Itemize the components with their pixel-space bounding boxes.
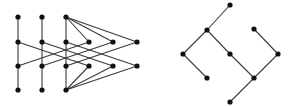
left-poset-node: [15, 39, 20, 44]
left-poset-node: [86, 63, 91, 68]
right-poset-edge: [254, 54, 278, 78]
left-poset-node: [63, 87, 68, 92]
left-poset-node: [110, 63, 115, 68]
left-poset-edge: [66, 66, 137, 90]
left-poset-node: [39, 39, 44, 44]
left-poset-node: [15, 63, 20, 68]
right-poset-node: [275, 51, 280, 56]
left-poset-node: [15, 87, 20, 92]
right-poset-edge: [207, 5, 230, 30]
right-poset-edge: [183, 54, 207, 78]
left-poset-node: [63, 14, 68, 19]
right-poset-node: [251, 75, 256, 80]
right-poset-node: [227, 99, 232, 104]
diagram-canvas: [0, 0, 293, 106]
left-poset-node: [39, 87, 44, 92]
right-poset-edge: [230, 54, 254, 78]
right-poset-node: [251, 26, 256, 31]
left-poset-node: [86, 39, 91, 44]
right-poset-node: [204, 27, 209, 32]
edges-layer: [18, 5, 278, 102]
right-poset-edge: [183, 30, 207, 54]
right-poset-node: [227, 2, 232, 7]
left-poset-edge: [66, 66, 113, 90]
right-poset-edge: [230, 78, 254, 102]
left-poset-edge: [66, 17, 113, 42]
right-poset-edge: [207, 30, 230, 54]
left-poset-node: [63, 39, 68, 44]
right-poset-node: [180, 51, 185, 56]
right-poset-node: [227, 51, 232, 56]
left-poset-node: [15, 14, 20, 19]
left-poset-node: [110, 39, 115, 44]
left-poset-node: [39, 14, 44, 19]
right-poset-node: [204, 75, 209, 80]
left-poset-node: [63, 63, 68, 68]
left-poset-edge: [66, 17, 137, 42]
left-poset-node: [39, 63, 44, 68]
left-poset-node: [134, 63, 139, 68]
right-poset-edge: [254, 29, 278, 54]
left-poset-node: [134, 39, 139, 44]
